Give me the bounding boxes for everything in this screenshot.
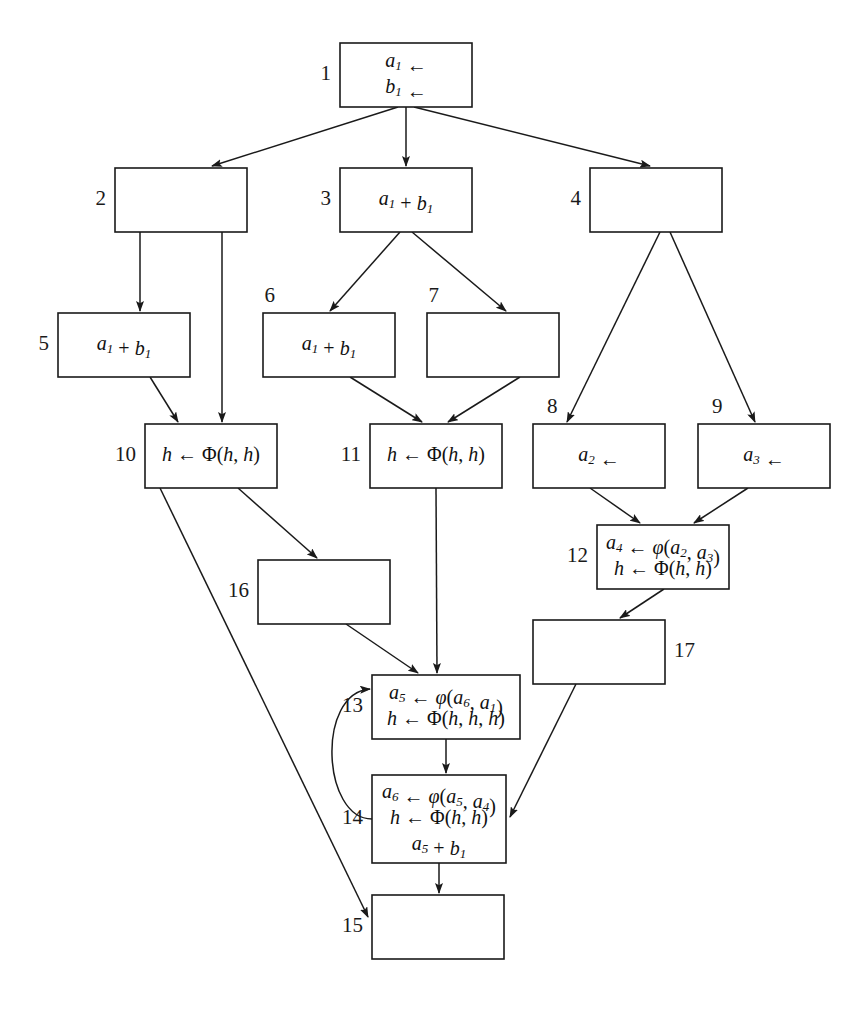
svg-text:h ← Φ(h, h): h ← Φ(h, h) xyxy=(614,557,712,580)
edge-1-to-2 xyxy=(212,107,398,166)
edge-10-to-15 xyxy=(160,488,368,917)
cfg-node-2[interactable]: 2 xyxy=(96,168,248,232)
node-number-1: 1 xyxy=(321,61,332,85)
edge-12-to-17 xyxy=(620,589,664,618)
cfg-node-3[interactable]: 3a1 + b1 xyxy=(321,168,473,232)
edge-7-to-11 xyxy=(448,377,520,422)
cfg-node-5[interactable]: 5a1 + b1 xyxy=(39,313,191,377)
edge-4-to-8 xyxy=(567,232,660,422)
cfg-node-15[interactable]: 15 xyxy=(342,895,504,959)
node-number-9: 9 xyxy=(712,394,723,418)
cfg-node-6[interactable]: 6a1 + b1 xyxy=(263,283,395,377)
node-box-16[interactable] xyxy=(258,560,390,624)
edge-9-to-12 xyxy=(694,488,748,523)
cfg-node-7[interactable]: 7 xyxy=(427,283,559,377)
node-layer: 1a1 ←b1 ←23a1 + b145a1 + b16a1 + b178a2 … xyxy=(39,43,831,959)
edge-11-to-13 xyxy=(436,488,437,673)
node-statements-11: h ← Φ(h, h) xyxy=(387,443,485,466)
cfg-node-11[interactable]: 11h ← Φ(h, h) xyxy=(341,424,502,488)
node-number-4: 4 xyxy=(571,186,582,210)
node-statements-1: a1 ←b1 ← xyxy=(385,49,427,102)
svg-text:h ← Φ(h, h, h): h ← Φ(h, h, h) xyxy=(387,707,505,730)
cfg-node-12[interactable]: 12a4 ← φ(a2, a3)h ← Φ(h, h) xyxy=(567,525,729,589)
cfg-node-1[interactable]: 1a1 ←b1 ← xyxy=(321,43,473,107)
node-number-16: 16 xyxy=(228,578,249,602)
node-box-2[interactable] xyxy=(115,168,247,232)
node-number-14: 14 xyxy=(342,805,364,829)
node-statements-10: h ← Φ(h, h) xyxy=(162,443,260,466)
node-number-13: 13 xyxy=(342,693,363,717)
diagram-canvas: 1a1 ←b1 ←23a1 + b145a1 + b16a1 + b178a2 … xyxy=(0,0,862,1009)
edge-5-to-10 xyxy=(150,377,178,422)
node-box-4[interactable] xyxy=(590,168,722,232)
node-number-17: 17 xyxy=(674,638,695,662)
cfg-node-10[interactable]: 10h ← Φ(h, h) xyxy=(115,424,277,488)
node-number-3: 3 xyxy=(321,186,332,210)
node-number-15: 15 xyxy=(342,913,363,937)
cfg-node-9[interactable]: 9a3 ← xyxy=(698,394,830,488)
node-number-2: 2 xyxy=(96,186,107,210)
cfg-node-13[interactable]: 13a5 ← φ(a6, a1)h ← Φ(h, h, h) xyxy=(342,675,520,739)
edge-16-to-13 xyxy=(346,624,418,673)
edge-6-to-11 xyxy=(350,377,422,422)
cfg-node-8[interactable]: 8a2 ← xyxy=(533,394,665,488)
node-box-7[interactable] xyxy=(427,313,559,377)
edge-3-to-6 xyxy=(330,232,400,311)
edge-1-to-4 xyxy=(414,107,650,166)
edge-8-to-12 xyxy=(590,488,640,523)
node-number-5: 5 xyxy=(39,331,50,355)
node-number-7: 7 xyxy=(429,283,440,307)
svg-text:h ← Φ(h, h): h ← Φ(h, h) xyxy=(162,443,260,466)
node-number-12: 12 xyxy=(567,543,588,567)
cfg-node-17[interactable]: 17 xyxy=(533,620,695,684)
node-number-10: 10 xyxy=(115,442,136,466)
svg-text:h ← Φ(h, h): h ← Φ(h, h) xyxy=(387,443,485,466)
node-box-17[interactable] xyxy=(533,620,665,684)
node-number-11: 11 xyxy=(341,442,361,466)
control-flow-graph-diagram: 1a1 ←b1 ←23a1 + b145a1 + b16a1 + b178a2 … xyxy=(0,0,862,1009)
svg-text:h ← Φ(h, h): h ← Φ(h, h) xyxy=(390,806,488,829)
cfg-node-16[interactable]: 16 xyxy=(228,560,390,624)
node-box-15[interactable] xyxy=(372,895,504,959)
cfg-node-4[interactable]: 4 xyxy=(571,168,723,232)
edge-10-to-16 xyxy=(238,488,317,558)
node-number-6: 6 xyxy=(265,283,276,307)
node-number-8: 8 xyxy=(547,394,558,418)
edge-3-to-7 xyxy=(412,232,506,311)
